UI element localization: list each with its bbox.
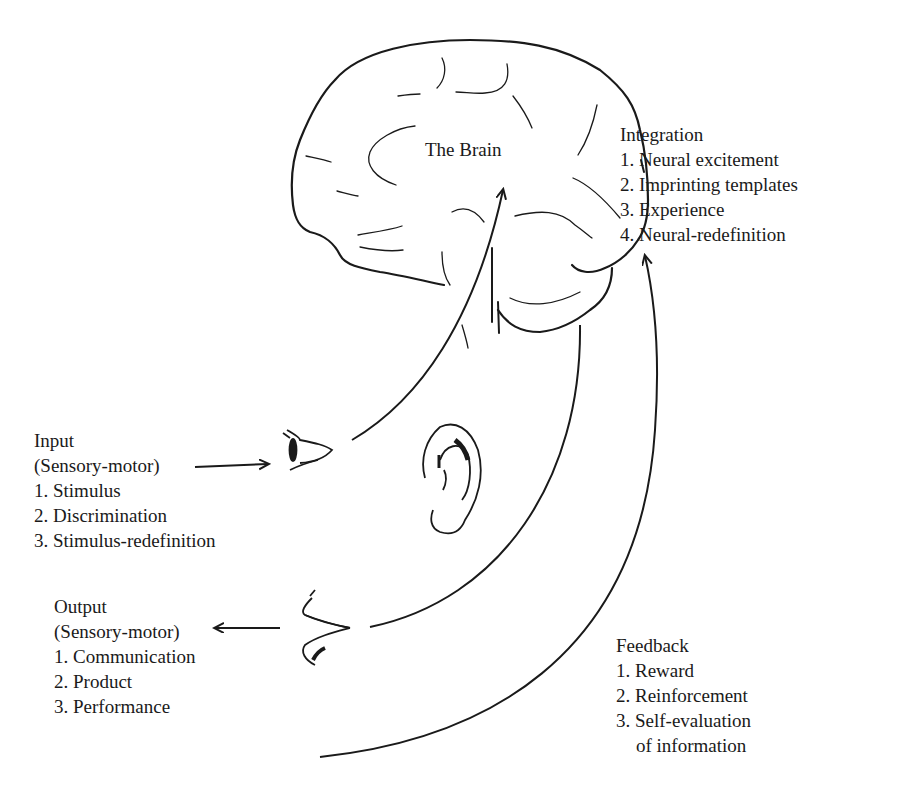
integration-item: 4. Neural-redefinition [620, 222, 798, 247]
output-item: 3. Performance [54, 694, 195, 719]
eye-icon [283, 430, 332, 470]
brain-title: The Brain [425, 139, 502, 161]
input-to-brain-arrow [352, 190, 503, 440]
output-subheading: (Sensory-motor) [54, 619, 195, 644]
integration-item: 1. Neural excitement [620, 147, 798, 172]
feedback-arrow [320, 256, 657, 757]
input-item: 3. Stimulus-redefinition [34, 528, 216, 553]
integration-item: 2. Imprinting templates [620, 172, 798, 197]
output-item: 2. Product [54, 669, 195, 694]
feedback-item: 3. Self-evaluation [616, 708, 751, 733]
feedback-heading: Feedback [616, 633, 751, 658]
feedback-item-continuation: of information [616, 733, 751, 758]
ear-icon [423, 425, 481, 534]
input-subheading: (Sensory-motor) [34, 453, 216, 478]
feedback-item: 2. Reinforcement [616, 683, 751, 708]
feedback-section: Feedback 1. Reward 2. Reinforcement 3. S… [616, 633, 751, 758]
output-heading: Output [54, 594, 195, 619]
input-item: 1. Stimulus [34, 478, 216, 503]
mouth-icon [303, 590, 350, 665]
output-item: 1. Communication [54, 644, 195, 669]
integration-item: 3. Experience [620, 197, 798, 222]
integration-section: Integration 1. Neural excitement 2. Impr… [620, 122, 798, 247]
integration-heading: Integration [620, 122, 798, 147]
brain-to-output-curve [370, 325, 580, 627]
feedback-item: 1. Reward [616, 658, 751, 683]
output-section: Output (Sensory-motor) 1. Communication … [54, 594, 195, 719]
input-item: 2. Discrimination [34, 503, 216, 528]
input-heading: Input [34, 428, 216, 453]
input-section: Input (Sensory-motor) 1. Stimulus 2. Dis… [34, 428, 216, 553]
brain-icon [292, 40, 648, 348]
